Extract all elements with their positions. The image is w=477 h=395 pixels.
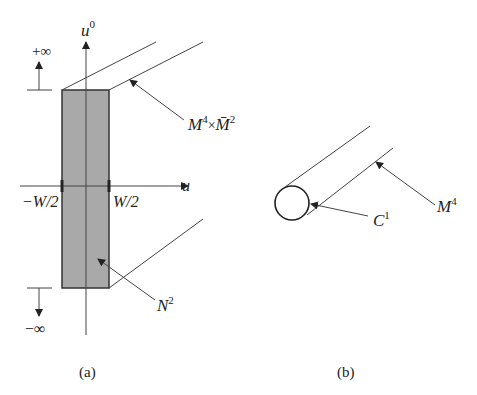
product-label-pointer bbox=[130, 80, 184, 120]
circle-c1 bbox=[275, 186, 309, 220]
vertical-axis-label: u0 bbox=[81, 18, 96, 40]
horizontal-axis-label: u bbox=[182, 177, 190, 194]
c1-pointer bbox=[311, 204, 368, 216]
m4-pointer bbox=[376, 162, 435, 205]
minus-infinity-label: −∞ bbox=[25, 320, 45, 337]
cylinder-bottom-line bbox=[307, 148, 393, 215]
plus-infinity-label: +∞ bbox=[32, 43, 51, 59]
caption-b: (b) bbox=[337, 364, 355, 381]
caption-a: (a) bbox=[79, 364, 96, 381]
top-extension-right bbox=[109, 42, 203, 90]
panel-a: u0 u +∞ −∞ −W/2 W/2 M4×M̄2 N2 (a) bbox=[20, 18, 235, 381]
top-extension-left bbox=[62, 42, 156, 90]
c1-label: C1 bbox=[373, 209, 390, 230]
cylinder-top-line bbox=[285, 126, 370, 187]
left-bound-label: −W/2 bbox=[22, 193, 59, 210]
m4-label: M4 bbox=[436, 195, 457, 216]
diagram-canvas: u0 u +∞ −∞ −W/2 W/2 M4×M̄2 N2 (a) C1 M4 … bbox=[0, 0, 477, 395]
product-manifold-label: M4×M̄2 bbox=[187, 113, 235, 134]
right-bound-label: W/2 bbox=[113, 193, 139, 210]
n-manifold-label: N2 bbox=[156, 294, 174, 315]
panel-b: C1 M4 (b) bbox=[275, 126, 457, 381]
